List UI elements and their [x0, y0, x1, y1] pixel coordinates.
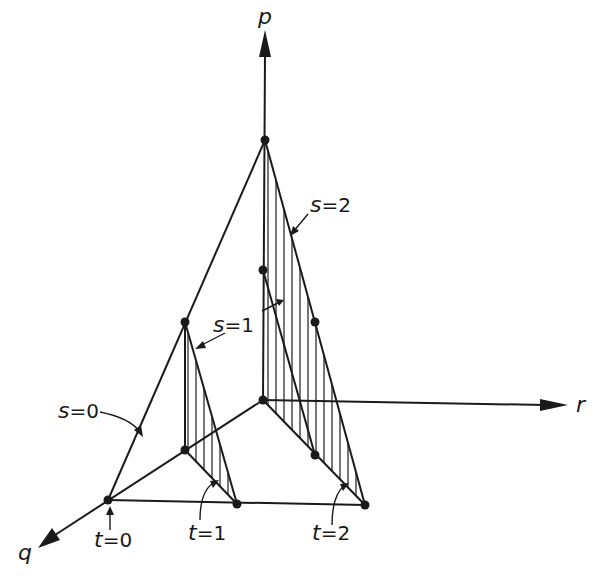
vertex-apex: [261, 136, 270, 145]
vertex-right-mid: [311, 318, 320, 327]
q-axis-label: q: [18, 540, 32, 565]
r-axis-arrowhead-icon: [540, 399, 568, 411]
vertex-left-peak: [181, 318, 190, 327]
vertex-t1-inner: [181, 446, 190, 455]
t0-arrowhead-icon: [106, 506, 114, 515]
vertex-mid: [259, 266, 268, 275]
pointer-s0: [100, 412, 140, 432]
label-s0: s=0: [58, 398, 99, 423]
simplex-diagram: p r q s=0 s=1 s=2 t=0 t=1 t=2: [0, 0, 595, 582]
vertex-t1: [233, 500, 242, 509]
q-axis-arrowhead-icon: [38, 528, 60, 548]
label-t1: t=1: [188, 520, 226, 545]
label-s2: s=2: [310, 192, 351, 217]
s1a-arrowhead-icon: [195, 341, 206, 349]
r-axis-label: r: [576, 392, 587, 417]
p-axis-label: p: [257, 4, 272, 29]
vertex-t0: [104, 496, 113, 505]
vertex-origin: [259, 396, 268, 405]
vertex-t2-inner: [311, 451, 320, 460]
label-t0: t=0: [94, 527, 132, 552]
p-axis-arrowhead-icon: [259, 30, 271, 57]
vertex-t2: [361, 501, 370, 510]
label-s1: s=1: [213, 312, 254, 337]
label-t2: t=2: [312, 520, 350, 545]
